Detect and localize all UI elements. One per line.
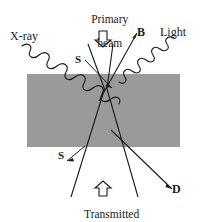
xray-label: X-ray (10, 30, 38, 43)
transmitted-beam-label-line1: Transmitted (84, 208, 139, 220)
beam-b-label: B (137, 26, 145, 39)
sample-s-bottom-label: S (58, 150, 64, 162)
scientific-diagram-figure: Primary beam Transmitted beam X-ray Ligh… (0, 0, 205, 222)
primary-beam-label-line1: Primary (91, 13, 128, 25)
transmitted-beam-up-arrow-icon (95, 181, 111, 196)
light-label: Light (160, 26, 186, 39)
detector-d-label: D (172, 183, 181, 196)
sample-s-top-label: S (75, 54, 81, 66)
transmitted-beam-label: Transmitted beam (56, 196, 156, 222)
primary-beam-label-line2: beam (97, 37, 122, 49)
